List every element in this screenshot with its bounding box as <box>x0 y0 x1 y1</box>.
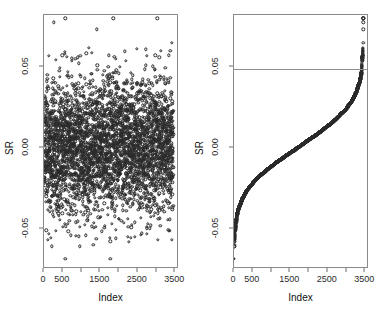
data-point <box>158 55 161 58</box>
data-point <box>99 215 102 218</box>
x-tick-label: 0 <box>230 274 235 284</box>
data-point <box>154 54 157 57</box>
data-point <box>70 74 73 77</box>
data-point <box>145 54 148 57</box>
data-point <box>119 172 122 175</box>
data-point <box>171 119 174 122</box>
data-point <box>61 212 64 215</box>
data-point <box>127 240 130 243</box>
data-region-left <box>44 15 177 267</box>
data-point <box>139 216 142 219</box>
data-point <box>86 116 89 119</box>
x-tick-label: 500 <box>54 274 69 284</box>
y-tick-label: -0.05 <box>20 217 30 238</box>
data-point <box>172 173 175 176</box>
data-point <box>77 235 80 238</box>
data-point <box>131 81 134 84</box>
y-axis-label-right: SR <box>194 141 205 155</box>
data-point <box>77 62 80 65</box>
data-point <box>67 190 70 193</box>
data-point <box>64 177 67 180</box>
data-point <box>171 109 174 112</box>
data-point <box>106 213 109 216</box>
data-point <box>168 217 171 220</box>
data-point <box>92 243 95 246</box>
x-tick-label: 1500 <box>89 274 109 284</box>
data-point <box>149 224 152 227</box>
x-tick-label: 3500 <box>164 274 184 284</box>
x-tick <box>270 268 271 272</box>
data-point <box>118 65 121 68</box>
data-point <box>78 185 81 188</box>
data-point <box>145 232 148 235</box>
data-point <box>46 77 49 80</box>
data-point <box>107 65 110 68</box>
data-point <box>361 27 364 30</box>
data-point <box>151 84 154 87</box>
x-tick <box>136 268 137 272</box>
data-point <box>64 17 67 20</box>
data-point <box>64 257 67 260</box>
data-point <box>162 205 165 208</box>
data-point <box>64 225 67 228</box>
data-point <box>103 224 106 227</box>
data-point <box>129 225 132 228</box>
data-point <box>68 219 71 222</box>
data-point <box>86 218 89 221</box>
data-point <box>81 85 84 88</box>
data-point <box>115 204 118 207</box>
data-point <box>67 230 70 233</box>
y-tick-label: 0.00 <box>210 138 220 156</box>
data-point <box>65 55 68 58</box>
x-axis-label-left: Index <box>43 292 178 303</box>
data-point <box>50 245 53 248</box>
data-point <box>84 234 87 237</box>
x-tick <box>364 268 365 272</box>
data-point <box>113 214 116 217</box>
panel-scatter-sorted: 0500150025003500-0.050.000.05 Index SR <box>190 0 380 321</box>
y-tick-label: -0.05 <box>210 217 220 238</box>
data-point <box>154 75 157 78</box>
data-point <box>169 195 172 198</box>
data-point <box>52 215 55 218</box>
data-point <box>114 237 117 240</box>
x-tick-label: 500 <box>244 274 259 284</box>
data-point <box>158 217 161 220</box>
x-tick <box>43 268 44 272</box>
data-point <box>165 99 168 102</box>
data-point <box>164 66 167 69</box>
data-point <box>92 221 95 224</box>
data-point <box>140 231 143 234</box>
data-point <box>79 54 82 57</box>
data-point <box>46 104 49 107</box>
x-tick <box>345 268 346 272</box>
data-point <box>54 58 57 61</box>
data-point <box>114 197 117 200</box>
data-point <box>107 84 110 87</box>
data-point <box>95 27 98 30</box>
data-point <box>85 52 88 55</box>
data-point <box>57 92 60 95</box>
data-point <box>158 192 161 195</box>
data-point <box>169 49 172 52</box>
data-point <box>171 133 174 136</box>
y-tick <box>229 227 233 228</box>
x-tick-label: 3500 <box>354 274 374 284</box>
x-tick <box>251 268 252 272</box>
data-point <box>61 86 64 89</box>
data-point <box>58 69 61 72</box>
data-point <box>233 257 236 260</box>
data-point <box>107 54 110 57</box>
data-point <box>170 238 173 241</box>
y-tick <box>229 65 233 66</box>
data-point <box>171 156 174 159</box>
data-point <box>47 87 50 90</box>
data-point <box>66 222 69 225</box>
data-point <box>160 102 163 105</box>
data-point <box>117 87 120 90</box>
plot-box-left <box>43 14 178 268</box>
data-point <box>109 240 112 243</box>
data-point <box>143 68 146 71</box>
data-point <box>111 76 114 79</box>
y-tick <box>39 65 43 66</box>
